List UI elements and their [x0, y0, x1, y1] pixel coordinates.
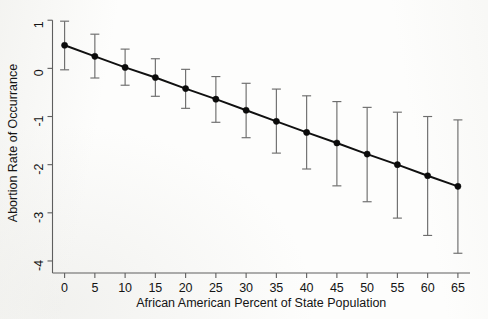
x-tick-label: 10	[118, 281, 132, 295]
data-point-marker	[92, 53, 98, 59]
y-tick-label: 0	[33, 69, 47, 76]
data-point-marker	[152, 74, 158, 80]
data-point-marker	[62, 42, 68, 48]
y-tick-label: -2	[33, 164, 47, 175]
y-tick-label: 1	[33, 21, 47, 28]
x-axis-title: African American Percent of State Popula…	[136, 296, 386, 310]
data-point-marker	[334, 140, 340, 146]
y-tick-label: -3	[33, 212, 47, 223]
x-tick-label: 20	[179, 281, 193, 295]
data-point-marker	[213, 96, 219, 102]
chart-figure: 10-1-2-3-405101520253035404550556065Afri…	[0, 0, 488, 319]
data-point-marker	[273, 118, 279, 124]
data-point-marker	[364, 151, 370, 157]
data-point-marker	[425, 173, 431, 179]
marginal-effects-plot: 10-1-2-3-405101520253035404550556065Afri…	[0, 0, 488, 319]
data-point-marker	[304, 129, 310, 135]
data-point-marker	[394, 162, 400, 168]
x-tick-label: 40	[300, 281, 314, 295]
data-point-marker	[243, 107, 249, 113]
x-tick-label: 5	[91, 281, 98, 295]
x-tick-label: 15	[148, 281, 162, 295]
y-tick-label: -4	[33, 260, 47, 271]
x-tick-label: 45	[330, 281, 344, 295]
x-tick-label: 0	[61, 281, 68, 295]
data-point-marker	[183, 85, 189, 91]
x-tick-label: 30	[239, 281, 253, 295]
data-point-marker	[455, 183, 461, 189]
x-tick-label: 65	[451, 281, 465, 295]
y-tick-label: -1	[33, 115, 47, 126]
data-point-marker	[122, 64, 128, 70]
x-tick-label: 35	[269, 281, 283, 295]
x-tick-label: 60	[421, 281, 435, 295]
x-tick-label: 25	[209, 281, 223, 295]
x-tick-label: 50	[360, 281, 374, 295]
x-tick-label: 55	[390, 281, 404, 295]
y-axis-title: Abortion Rate of Occurrance	[6, 64, 20, 222]
